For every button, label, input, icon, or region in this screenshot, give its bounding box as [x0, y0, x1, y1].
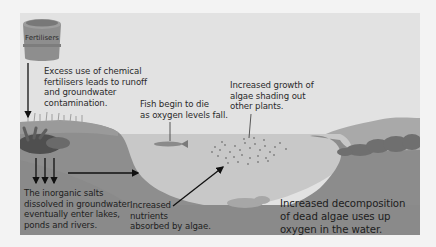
- fish-annotation: Fish begin to die as oxygen levels fall.: [140, 99, 228, 120]
- inorganic-salts-annotation: The inorganic salts dissolved in groundw…: [24, 188, 130, 230]
- nutrients-annotation: Increased nutrients absorbed by algae.: [130, 200, 211, 232]
- eutrophication-diagram: Fertilisers Excess use of chemical ferti…: [0, 0, 436, 247]
- runoff-annotation: Excess use of chemical fertilisers leads…: [44, 66, 147, 108]
- barrel-label: Fertilisers: [22, 34, 62, 42]
- algae-growth-annotation: Increased growth of algae shading out ot…: [230, 80, 314, 112]
- decomposition-annotation: Increased decomposition of dead algae us…: [280, 197, 405, 236]
